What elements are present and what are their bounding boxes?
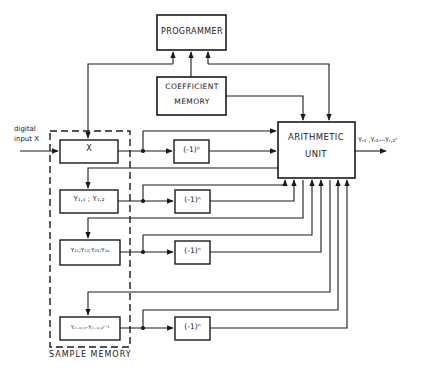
sign-block-3-label: (-1)ⁿ <box>175 246 210 255</box>
memory-cell-x-label: X <box>60 144 118 153</box>
output-label: Yᵣ₁ ,Yᵣ₂---Yᵣ,₂ʳ <box>358 136 397 144</box>
memory-cell-y1-label: Y₁,₁ ; Y₁,₂ <box>60 195 118 203</box>
sample-memory-label: SAMPLE MEMORY <box>49 350 132 359</box>
programmer-label: PROGRAMMER <box>158 27 226 36</box>
sign-block-1-label: (-1)ⁿ <box>174 145 209 154</box>
block-diagram-canvas <box>0 0 442 372</box>
input-label-1: digital <box>14 125 36 133</box>
coefficient-memory-label-2: MEMORY <box>157 97 227 106</box>
input-label-2: input X <box>14 135 39 143</box>
coefficient-memory-label-1: COEFFICIENT <box>157 82 227 91</box>
memory-cell-yr-label: Y₍ᵣ₋₁₎,₁–Y₍ᵣ₋₁₎,₂ʳ⁻¹ <box>61 324 119 330</box>
arithmetic-unit-label-1: ARITHMETIC <box>280 132 352 142</box>
memory-cell-y2-label: Y₂₁;Y₂₂;Y₂₃;Y₂₄ <box>61 247 119 253</box>
sign-block-2-label: (-1)ⁿ <box>175 195 210 204</box>
arithmetic-unit-label-2: UNIT <box>280 149 352 159</box>
sign-block-4-label: (-1)ⁿ <box>175 322 210 331</box>
